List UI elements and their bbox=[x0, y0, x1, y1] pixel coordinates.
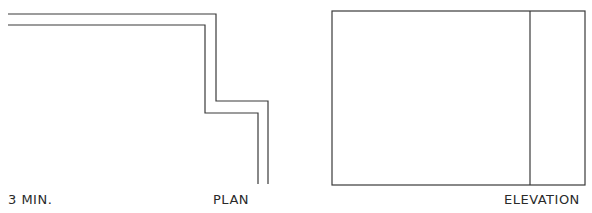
elevation-view bbox=[332, 11, 585, 185]
elevation-label: ELEVATION bbox=[504, 193, 580, 206]
technical-drawing bbox=[0, 0, 592, 213]
scale-label: 3 MIN. bbox=[8, 193, 52, 206]
plan-inner-wall-line bbox=[8, 25, 258, 184]
plan-label: PLAN bbox=[213, 193, 249, 206]
elevation-outline bbox=[332, 11, 585, 185]
plan-view bbox=[8, 14, 268, 184]
plan-outer-wall-line bbox=[8, 14, 268, 184]
